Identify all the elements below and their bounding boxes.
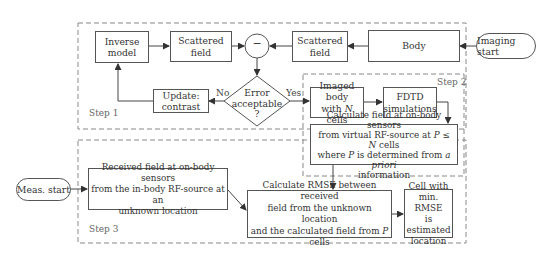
rmse-line3-text: and the calculated field from — [251, 226, 383, 236]
calc-field-line3: where P is determined from a priori — [313, 150, 455, 170]
no-edge-label: No — [216, 88, 229, 98]
imaging-start-label: Imaging start — [477, 35, 535, 57]
calc-field-text: from virtual RF-source at — [318, 130, 433, 140]
update-contrast-box: Update: contrast — [153, 89, 209, 113]
flowchart-diagram: Step 1 Step 2 Step 3 Inverse model Scatt… — [0, 0, 556, 259]
rmse-box: Calculate RMSE between received field fr… — [247, 190, 392, 238]
yes-edge-label: Yes — [286, 88, 301, 98]
received-field-line3: unknown location — [118, 206, 197, 217]
imaging-start-terminal: Imaging start — [476, 33, 536, 59]
received-field-line2: from the in-body RF-source at an — [91, 184, 225, 206]
error-decision-text: Error acceptable ? — [224, 88, 290, 120]
calc-field-where: where — [318, 150, 349, 160]
update-contrast-line1: Update: — [162, 90, 199, 102]
rmse-line3: and the calculated field from P cells — [250, 226, 389, 249]
arrow-update-to-inverse — [118, 64, 153, 101]
received-field-line1: Received field at on-body sensors — [91, 162, 225, 184]
scattered-field-left-box: Scattered field — [170, 31, 232, 62]
step3-label: Step 3 — [89, 224, 118, 234]
min-rmse-line1: Cell with — [409, 181, 449, 192]
subtract-symbol: − — [250, 39, 264, 50]
decision-line3: ? — [224, 109, 290, 120]
decision-line1: Error — [224, 88, 290, 99]
min-rmse-line4: location — [411, 236, 447, 247]
rmse-line2: field from the unknown location — [250, 203, 389, 226]
scattered-field-right-box: Scattered field — [292, 31, 348, 62]
arrow-received-to-rmse — [228, 190, 246, 210]
step2-label: Step 2 — [437, 77, 466, 87]
fdtd-line1: FDTD — [396, 91, 423, 103]
scattered-field-right-line1: Scattered — [297, 35, 342, 47]
calc-field-line2: from virtual RF-source at P ≤ N cells — [313, 130, 455, 150]
calc-field-line1: Calculate field at on-body sensors — [313, 110, 455, 130]
rmse-p: P — [382, 226, 388, 236]
calc-field-leq: ≤ — [440, 130, 450, 140]
body-label: Body — [402, 40, 425, 52]
scattered-field-right-line2: field — [310, 47, 330, 59]
scattered-field-left-line2: field — [191, 47, 211, 59]
rmse-line1: Calculate RMSE between received — [250, 180, 389, 203]
imaged-body-line1: Imaged body — [313, 80, 361, 103]
body-box: Body — [368, 30, 460, 62]
scattered-field-left-line1: Scattered — [178, 35, 223, 47]
inverse-model-line2: model — [108, 47, 137, 59]
received-field-box: Received field at on-body sensors from t… — [88, 168, 228, 210]
calc-field-cells: cells — [376, 140, 399, 150]
meas-start-terminal: Meas. start — [16, 178, 71, 201]
inverse-model-line1: Inverse — [105, 36, 140, 48]
step1-label: Step 1 — [89, 108, 118, 118]
inverse-model-box: Inverse model — [95, 31, 149, 63]
rmse-cells: cells — [309, 237, 329, 247]
min-rmse-line3: is estimated — [406, 214, 450, 236]
calc-field-line4: information — [358, 170, 410, 180]
min-rmse-line2: min. RMSE — [407, 192, 450, 214]
calc-field-determined: is determined from — [354, 150, 445, 160]
calc-field-box: Calculate field at on-body sensors from … — [310, 124, 458, 165]
min-rmse-cell-box: Cell with min. RMSE is estimated locatio… — [404, 189, 453, 238]
meas-start-label: Meas. start — [17, 184, 70, 195]
update-contrast-line2: contrast — [162, 101, 201, 113]
